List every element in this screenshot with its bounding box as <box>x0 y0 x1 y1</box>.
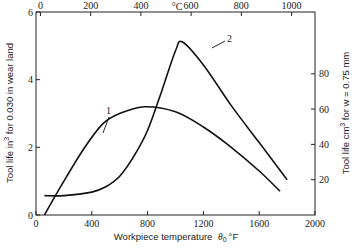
y-tick-label: 0 <box>28 210 33 221</box>
x2-tick-label: 600 <box>184 0 199 11</box>
x-tick-label: 2000 <box>305 218 325 229</box>
x2-tick-label: 0 <box>38 0 43 11</box>
curve-2-label: 2 <box>227 33 232 44</box>
x-tick-label: 1600 <box>249 218 269 229</box>
top-axis-unit: °C <box>172 1 183 12</box>
x2-tick-label: 200 <box>83 0 98 11</box>
right-axis-title: Tool life cm3 for w = 0.75 mm <box>339 52 351 175</box>
curve-1-leader <box>103 117 109 133</box>
left-axis-in3: 0246 <box>28 7 40 221</box>
left-axis-title: Tool life in3 for 0.030 in wear land <box>3 43 15 183</box>
curve-2-leader <box>212 41 225 48</box>
tool-life-chart: 0400800120016002000 02004006008001000 02… <box>0 0 356 252</box>
curve-1-label: 1 <box>106 105 111 116</box>
y2-tick-label: 80 <box>319 68 329 79</box>
y2-tick-label: 40 <box>319 139 329 150</box>
curve-2 <box>44 41 287 196</box>
x2-tick-label: 1000 <box>282 0 302 11</box>
x2-tick-label: 800 <box>234 0 249 11</box>
x-axis-title: Workpiece temperature θ0°F <box>114 231 239 243</box>
x-tick-label: 800 <box>140 218 155 229</box>
y-tick-label: 4 <box>28 74 33 85</box>
x-tick-label: 0 <box>34 218 39 229</box>
top-axis-celsius: 02004006008001000 <box>38 0 302 16</box>
x-tick-label: 1200 <box>193 218 213 229</box>
x-tick-label: 400 <box>84 218 99 229</box>
bottom-axis-fahrenheit: 0400800120016002000 <box>34 211 326 229</box>
curves: 12 <box>44 33 287 215</box>
right-axis-cm3: 20406080 <box>311 68 329 185</box>
y2-tick-label: 60 <box>319 104 329 115</box>
x2-tick-label: 400 <box>133 0 148 11</box>
y-tick-label: 2 <box>28 142 33 153</box>
y2-tick-label: 20 <box>319 174 329 185</box>
y-tick-label: 6 <box>28 7 33 18</box>
